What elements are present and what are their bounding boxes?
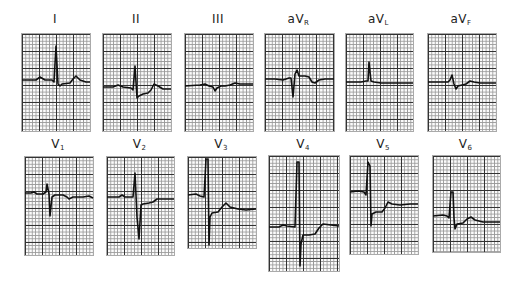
ecg-trace [433, 156, 500, 252]
ecg-panel-v5 [349, 155, 419, 255]
ecg-trace [346, 34, 413, 131]
lead-subscript: 3 [223, 144, 228, 152]
lead-name: aV [368, 12, 385, 26]
lead-name: V [296, 137, 305, 151]
lead-label-iii: III [184, 12, 252, 26]
lead-label-avl: aVL [345, 12, 412, 27]
lead-name: III [212, 12, 224, 26]
ecg-panel-v6 [432, 155, 501, 253]
lead-label-v3: V3 [187, 137, 255, 152]
lead-name: aV [450, 12, 467, 26]
lead-label-v6: V6 [432, 137, 499, 152]
ecg-panel-v3 [187, 156, 257, 249]
ecg-panel-iii [184, 33, 254, 132]
lead-subscript: 1 [60, 144, 65, 152]
lead-label-v4: V4 [268, 137, 338, 152]
lead-subscript: 5 [385, 144, 390, 152]
lead-subscript: 6 [467, 144, 472, 152]
ecg-trace [22, 34, 90, 131]
lead-name: I [53, 12, 57, 26]
lead-label-i: I [21, 12, 89, 26]
ecg-trace [428, 34, 496, 131]
ecg-panel-v4 [268, 155, 340, 272]
lead-label-v5: V5 [349, 137, 417, 152]
ecg-trace [25, 157, 93, 255]
lead-subscript: 4 [305, 144, 310, 152]
ecg-trace [269, 156, 339, 271]
lead-label-v1: V1 [24, 137, 92, 152]
lead-name: aV [288, 12, 305, 26]
lead-name: V [51, 137, 60, 151]
lead-subscript: F [467, 19, 472, 27]
ecg-trace [350, 156, 418, 254]
ecg-trace [188, 157, 256, 248]
lead-subscript: 2 [141, 144, 146, 152]
lead-label-avr: aVR [264, 12, 333, 27]
lead-label-v2: V2 [106, 137, 173, 152]
ecg-panel-i [21, 33, 91, 132]
lead-name: II [132, 12, 140, 26]
ecg-trace [185, 34, 253, 131]
ecg-panel-avf [427, 33, 497, 132]
ecg-trace [107, 157, 174, 255]
ecg-panel-v1 [24, 156, 94, 256]
lead-name: V [376, 137, 385, 151]
lead-name: V [214, 137, 223, 151]
lead-subscript: R [304, 19, 309, 27]
ecg-panel-ii [102, 33, 172, 132]
ecg-panel-avl [345, 33, 414, 132]
ecg-trace [103, 34, 171, 131]
ecg-panel-v2 [106, 156, 175, 256]
lead-label-ii: II [102, 12, 170, 26]
lead-subscript: L [385, 19, 389, 27]
ecg-trace [265, 34, 334, 131]
ecg-panel-avr [264, 33, 335, 132]
lead-label-avf: aVF [427, 12, 495, 27]
